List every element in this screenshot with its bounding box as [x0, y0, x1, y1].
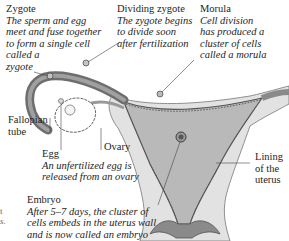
label-cut-off-fragment: t s.: [0, 206, 6, 226]
label-morula: Morula Cell division has produced a clus…: [200, 3, 267, 61]
label-egg: Egg An unfertilized egg is released from…: [42, 148, 139, 183]
follicle: [65, 105, 75, 115]
label-dividing-zygote: Dividing zygote The zygote begins to div…: [117, 3, 192, 49]
egg-cell: [59, 99, 64, 104]
label-lining: Lining of the uterus: [255, 151, 283, 186]
label-zygote: Zygote The sperm and egg meet and fuse t…: [6, 3, 101, 72]
leader-morula: [162, 60, 194, 92]
label-embryo: Embryo After 5–7 days, the cluster of ce…: [27, 194, 156, 240]
label-fallopian-tube: Fallopian tube: [8, 114, 48, 137]
